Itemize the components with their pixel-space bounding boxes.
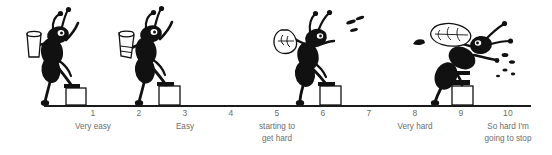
tick-label: starting to get hard: [239, 121, 315, 144]
ant-climbing-step-4: [413, 21, 515, 106]
scale-ticks: 1 Very easy 2 3 Easy 4 5 starting to get…: [0, 108, 552, 155]
scale-tick-10: 10 So hard I'm going to stop: [470, 108, 546, 144]
tick-label: Easy: [147, 121, 223, 133]
perceived-exertion-scale-figure: 1 Very easy 2 3 Easy 4 5 starting to get…: [0, 0, 552, 155]
tick-label: So hard I'm going to stop: [470, 121, 546, 144]
ant-climbing-step-3: [274, 10, 365, 106]
tick-label: Very easy: [55, 121, 131, 133]
ant-climbing-step-1: [27, 7, 86, 106]
scale-axis-line: [44, 105, 531, 107]
ant-climbing-step-2: [119, 6, 180, 106]
tick-label: Very hard: [377, 121, 453, 133]
tick-number: 10: [470, 108, 546, 119]
